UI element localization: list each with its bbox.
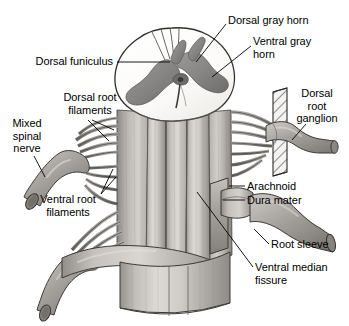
label-ventral-gray-horn: Ventral gray horn xyxy=(253,35,345,60)
label-dorsal-gray-horn: Dorsal gray horn xyxy=(228,14,348,27)
leader-root-sleeve xyxy=(254,229,269,244)
dorsal-root-filaments-left xyxy=(76,118,118,158)
root-filaments-right xyxy=(231,112,277,176)
label-mixed-spinal-nerve: Mixed spinal nerve xyxy=(0,117,54,155)
label-dorsal-funiculus: Dorsal funiculus xyxy=(13,55,113,68)
anatomical-figure: Dorsal funiculus Dorsal gray horn Ventra… xyxy=(0,0,349,326)
leader-ventral-root-filaments-b xyxy=(101,177,116,194)
label-dorsal-root-ganglion: Dorsal root ganglion xyxy=(285,87,349,125)
label-ventral-median-fissure: Ventral median fissure xyxy=(255,261,349,286)
label-root-sleeve: Root sleeve xyxy=(271,238,349,251)
label-arachnoid: Arachnoid xyxy=(247,180,337,193)
label-dorsal-root-filaments: Dorsal root filaments xyxy=(40,91,140,116)
label-dura-mater: Dura mater xyxy=(247,194,337,207)
label-ventral-root-filaments: Ventral root filaments xyxy=(18,193,118,218)
